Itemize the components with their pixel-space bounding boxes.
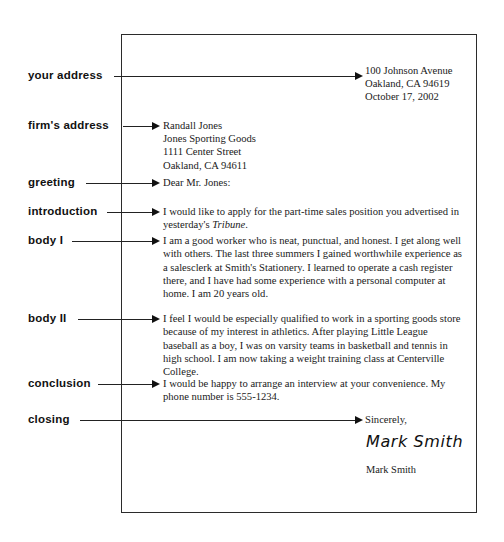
arrow-icon-firms-address xyxy=(152,122,160,130)
callout-label-greeting: greeting xyxy=(28,176,75,188)
inside-address-line-2: Jones Sporting Goods xyxy=(163,132,256,145)
leader-line-conclusion xyxy=(98,384,153,385)
greeting-text: Dear Mr. Jones: xyxy=(163,176,230,189)
leader-line-closing xyxy=(80,420,356,421)
leader-line-body-1 xyxy=(72,241,153,242)
callout-label-firms-address: firm's address xyxy=(28,119,109,131)
letter-parts-diagram: { "diagram": { "title": "Parts of a Busi… xyxy=(0,0,504,542)
closing-text: Sincerely, xyxy=(365,413,407,426)
callout-label-conclusion: conclusion xyxy=(28,377,91,389)
inside-address-line-4: Oakland, CA 94611 xyxy=(163,159,256,172)
inside-address-line-3: 1111 Center Street xyxy=(163,145,256,158)
callout-label-body-2: body II xyxy=(28,312,66,324)
callout-label-your-address: your address xyxy=(28,69,103,81)
arrow-icon-body-1 xyxy=(152,237,160,245)
arrow-icon-greeting xyxy=(152,179,160,187)
callout-label-body-1: body I xyxy=(28,234,63,246)
greeting-line: Dear Mr. Jones: xyxy=(163,176,230,189)
introduction-text-lead: I would like to apply for the part-time … xyxy=(163,206,459,230)
leader-line-greeting xyxy=(86,183,153,184)
closing-line: Sincerely, xyxy=(365,413,407,426)
inside-address-block: Randall Jones Jones Sporting Goods 1111 … xyxy=(163,119,256,172)
return-address-line-2: Oakland, CA 94619 xyxy=(365,77,453,90)
arrow-icon-conclusion xyxy=(152,380,160,388)
paragraph-body-2: I feel I would be especially qualified t… xyxy=(163,312,463,378)
callout-label-introduction: introduction xyxy=(28,205,97,217)
typed-signature-name: Mark Smith xyxy=(366,464,416,475)
arrow-icon-your-address xyxy=(355,72,363,80)
arrow-icon-introduction xyxy=(152,208,160,216)
return-address-line-3: October 17, 2002 xyxy=(365,90,453,103)
arrow-icon-body-2 xyxy=(152,315,160,323)
handwritten-signature: Mark Smith xyxy=(366,432,463,451)
leader-line-body-2 xyxy=(78,319,153,320)
leader-line-your-address xyxy=(114,76,356,77)
leader-line-introduction xyxy=(107,212,153,213)
paragraph-introduction: I would like to apply for the part-time … xyxy=(163,205,460,232)
paragraph-body-1: I am a good worker who is neat, punctual… xyxy=(163,234,463,300)
leader-line-firms-address xyxy=(123,126,153,127)
paragraph-conclusion: I would be happy to arrange an interview… xyxy=(163,377,460,404)
inside-address-line-1: Randall Jones xyxy=(163,119,256,132)
arrow-icon-closing xyxy=(355,416,363,424)
introduction-text-tail: . xyxy=(245,219,248,230)
return-address-line-1: 100 Johnson Avenue xyxy=(365,64,453,77)
callout-label-closing: closing xyxy=(28,413,70,425)
introduction-publication-name: Tribune xyxy=(212,219,245,230)
return-address-block: 100 Johnson Avenue Oakland, CA 94619 Oct… xyxy=(365,64,453,104)
